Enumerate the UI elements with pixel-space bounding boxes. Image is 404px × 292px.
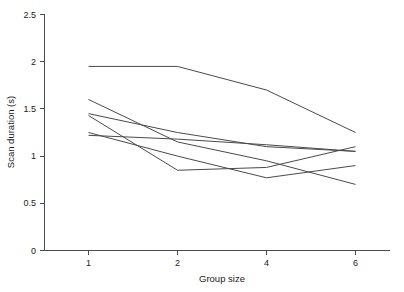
x-tick-label-1: 1: [86, 258, 91, 268]
x-axis-ticks: [89, 251, 356, 256]
series-group: [89, 66, 356, 184]
chart-canvas: 0 0.5 1 1.5 2 2.5 1 2 4 6 Group size Sca…: [0, 0, 404, 292]
y-axis-ticks: [40, 15, 45, 251]
x-axis-title: Group size: [199, 273, 245, 284]
y-axis-title: Scan duration (s): [5, 96, 16, 168]
series-line-3: [89, 114, 356, 152]
x-tick-label-4: 4: [264, 258, 269, 268]
x-tick-label-2: 2: [175, 258, 180, 268]
y-tick-label-0-5: 0.5: [23, 198, 36, 208]
x-tick-label-6: 6: [353, 258, 358, 268]
y-tick-label-2-5: 2.5: [23, 10, 36, 20]
line-chart: 0 0.5 1 1.5 2 2.5 1 2 4 6 Group size Sca…: [0, 0, 404, 292]
y-tick-label-1: 1: [31, 151, 36, 161]
x-axis-tick-labels: 1 2 4 6: [86, 258, 358, 268]
y-tick-label-0: 0: [31, 246, 36, 256]
y-axis-tick-labels: 0 0.5 1 1.5 2 2.5: [23, 10, 36, 256]
y-tick-label-1-5: 1.5: [23, 104, 36, 114]
y-tick-label-2: 2: [31, 57, 36, 67]
